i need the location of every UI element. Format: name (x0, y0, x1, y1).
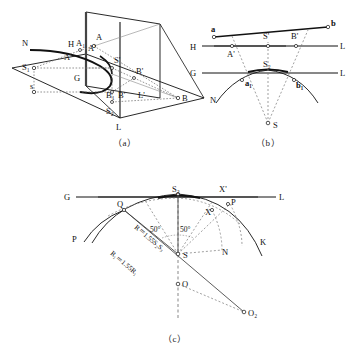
label-c-N: N (222, 247, 228, 257)
label-a-Aprime: A' (88, 43, 96, 53)
label-a-Sprime: S' (114, 55, 121, 65)
label-b-L-mid: L (340, 68, 345, 78)
label-c-Xprime: X' (219, 184, 227, 194)
label-b-Bprime: B' (291, 31, 299, 41)
label-b-N: N (210, 95, 216, 105)
label-a-Lprime: L' (138, 90, 145, 100)
label-b-a: a (211, 24, 216, 34)
inner-dashed-arc (108, 198, 240, 224)
figure-a: N H A₁ A' A A S' S₁ s G B₁ B' B' B L' S₂… (8, 6, 208, 136)
label-a-N: N (22, 38, 28, 48)
annotation-angle-right: 50° (180, 225, 191, 234)
label-a-s: s (30, 81, 33, 91)
label-a-Bprime: B' (118, 90, 126, 100)
label-a-S2: S₂ (106, 106, 114, 116)
label-b-Sprime: S' (263, 31, 270, 41)
figure-b-canvas: a b H L A' S' B' G L S₂ a₁ b₁ N S (186, 10, 350, 135)
label-c-K: K (260, 237, 267, 247)
label-c-O: O (182, 279, 188, 289)
figure-a-canvas: N H A₁ A' A A S' S₁ s G B₁ B' B' B L' S₂… (8, 6, 208, 136)
point-markers-b (212, 25, 329, 125)
annotation-angle-left: 50° (150, 225, 161, 234)
label-b-b1: b₁ (296, 80, 304, 90)
label-b-a1: a₁ (245, 78, 252, 88)
label-c-X: X (205, 207, 211, 217)
label-c-S: S (183, 250, 188, 260)
line-ab (214, 27, 328, 37)
chords-from-S (124, 194, 178, 254)
label-a-H: H (68, 39, 74, 49)
label-b-G: G (190, 68, 196, 78)
caption-c: （c） (163, 332, 187, 345)
label-b-S: S (273, 120, 278, 130)
label-b-b: b (331, 18, 336, 28)
label-c-Q: Q (117, 199, 123, 209)
label-a-B1: B₁ (106, 90, 115, 100)
label-a-S1: S₁ (22, 62, 30, 72)
figure-sheet: N H A₁ A' A A S' S₁ s G B₁ B' B' B L' S₂… (0, 0, 354, 354)
label-a-A-top: A (96, 32, 103, 42)
label-c-S2: S₂ (172, 184, 180, 194)
rays-from-S (232, 30, 308, 123)
label-a-G: G (74, 73, 80, 83)
label-a-A1: A₁ (76, 38, 85, 48)
label-a-A-left: A (64, 52, 71, 62)
figure-c: G S₂ X' L Q P X P K N S O O₂ 50° 50° R＝1… (62, 180, 292, 330)
label-c-P-right: P (231, 197, 236, 207)
label-c-L: L (279, 192, 284, 202)
annotation-radius-2: R₁＝1.55R₁ (109, 249, 140, 277)
label-a-Bprime-right: B' (136, 66, 144, 76)
figure-b: a b H L A' S' B' G L S₂ a₁ b₁ N S (186, 10, 350, 135)
label-b-L-top: L (340, 41, 345, 51)
dashed-arc-X (212, 210, 222, 250)
figure-c-canvas: G S₂ X' L Q P X P K N S O O₂ 50° 50° R＝1… (62, 180, 292, 330)
label-b-H: H (190, 42, 196, 52)
label-c-O2: O₂ (248, 308, 257, 318)
label-c-P-left: P (72, 234, 77, 244)
label-b-Aprime: A' (227, 49, 235, 59)
label-b-S2: S₂ (263, 59, 271, 69)
dashed-arc-P (230, 204, 242, 246)
label-c-G: G (64, 192, 70, 202)
label-a-L-bottom: L (116, 122, 121, 132)
caption-a: （a） (113, 136, 137, 149)
caption-b: （b） (256, 136, 280, 149)
